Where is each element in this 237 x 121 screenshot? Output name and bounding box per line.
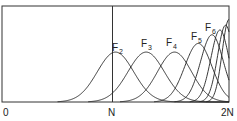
label-f3: F 3	[141, 38, 152, 51]
label-f5: F 5	[191, 31, 202, 44]
distribution-diagram: 0 N 2N F 2 F 3 F 4 F 5 F 6	[0, 0, 237, 121]
label-f6: F 6	[205, 22, 216, 35]
svg-text:F: F	[205, 22, 211, 33]
plot-frame	[2, 6, 229, 102]
svg-text:3: 3	[148, 44, 152, 51]
x-tick-0: 0	[3, 107, 9, 118]
svg-text:F: F	[112, 42, 118, 53]
svg-text:F: F	[191, 31, 197, 42]
svg-text:2: 2	[119, 48, 123, 55]
svg-text:5: 5	[198, 37, 202, 44]
x-tick-2n: 2N	[221, 107, 234, 118]
svg-text:6: 6	[212, 28, 216, 35]
curves-group	[58, 19, 229, 102]
curve-f2	[58, 52, 229, 102]
label-f2: F 2	[112, 42, 123, 55]
label-f4: F 4	[166, 37, 177, 50]
svg-text:4: 4	[173, 43, 177, 50]
svg-text:F: F	[166, 37, 172, 48]
x-tick-n: N	[108, 107, 115, 118]
svg-text:F: F	[141, 38, 147, 49]
